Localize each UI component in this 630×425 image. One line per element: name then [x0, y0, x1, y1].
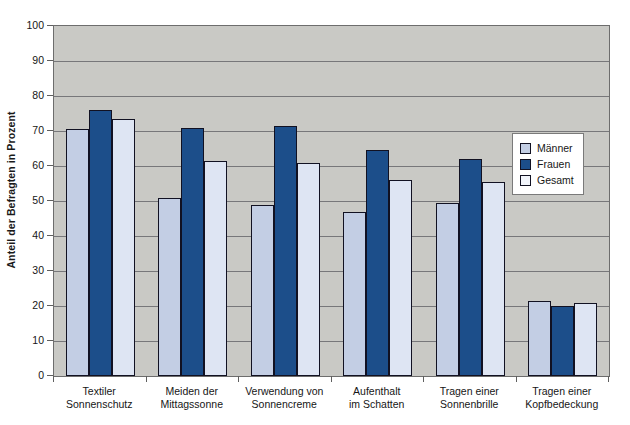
gridline: [54, 96, 609, 97]
bar: [343, 212, 366, 377]
y-tick-label: 10: [4, 334, 44, 346]
x-axis-label: Meiden derMittagssonne: [146, 385, 239, 411]
bar: [389, 180, 412, 376]
bar: [66, 129, 89, 376]
bar: [436, 203, 459, 376]
category-tick: [608, 376, 609, 382]
y-tick-label: 90: [4, 54, 44, 66]
legend: Männer Frauen Gesamt: [512, 133, 584, 195]
legend-item-frauen: Frauen: [520, 156, 574, 172]
legend-item-maenner: Männer: [520, 140, 574, 156]
bar: [366, 150, 389, 376]
x-label-line: Verwendung von: [238, 385, 331, 398]
bar: [204, 161, 227, 376]
legend-label-gesamt: Gesamt: [537, 174, 574, 186]
x-axis-label: TextilerSonnenschutz: [53, 385, 146, 411]
category-tick: [146, 376, 147, 382]
y-tick-label: 50: [4, 194, 44, 206]
gridline: [54, 201, 609, 202]
plot-area: [53, 25, 610, 377]
x-label-line: Sonnenbrille: [423, 398, 516, 411]
bar: [158, 198, 181, 377]
y-tick-label: 40: [4, 229, 44, 241]
bar: [112, 119, 135, 376]
gridline: [54, 271, 609, 272]
bar: [251, 205, 274, 377]
bar-chart: Anteil der Befragten in Prozent 01020304…: [0, 0, 630, 425]
x-axis-label: Tragen einerKopfbedeckung: [516, 385, 609, 411]
x-label-line: Tragen einer: [423, 385, 516, 398]
x-label-line: Sonnencreme: [238, 398, 331, 411]
x-axis-label: Verwendung vonSonnencreme: [238, 385, 331, 411]
bar: [89, 110, 112, 376]
bar: [574, 303, 597, 377]
bar: [274, 126, 297, 376]
y-tick-label: 80: [4, 89, 44, 101]
bar: [482, 182, 505, 376]
bar: [181, 128, 204, 377]
category-tick: [423, 376, 424, 382]
gridline: [54, 236, 609, 237]
gridline: [54, 306, 609, 307]
legend-swatch-icon-gesamt: [520, 175, 531, 186]
bar: [297, 163, 320, 377]
x-label-line: Meiden der: [146, 385, 239, 398]
y-tick-label: 70: [4, 124, 44, 136]
category-tick: [53, 376, 54, 382]
gridline: [54, 61, 609, 62]
gridline: [54, 131, 609, 132]
y-tick-label: 60: [4, 159, 44, 171]
x-axis-label: Aufenthaltim Schatten: [331, 385, 424, 411]
bar: [551, 306, 574, 376]
bar: [459, 159, 482, 376]
y-tick-label: 0: [4, 369, 44, 381]
legend-swatch-icon-maenner: [520, 143, 531, 154]
x-axis-label: Tragen einerSonnenbrille: [423, 385, 516, 411]
x-label-line: Sonnenschutz: [53, 398, 146, 411]
x-label-line: Aufenthalt: [331, 385, 424, 398]
category-tick: [331, 376, 332, 382]
gridline: [54, 341, 609, 342]
y-tick-label: 100: [4, 19, 44, 31]
x-label-line: Mittagssonne: [146, 398, 239, 411]
legend-item-gesamt: Gesamt: [520, 172, 574, 188]
category-tick: [238, 376, 239, 382]
x-label-line: Kopfbedeckung: [516, 398, 609, 411]
legend-label-frauen: Frauen: [537, 158, 570, 170]
legend-label-maenner: Männer: [537, 142, 573, 154]
x-label-line: im Schatten: [331, 398, 424, 411]
x-label-line: Textiler: [53, 385, 146, 398]
y-tick-label: 30: [4, 264, 44, 276]
bar: [528, 301, 551, 376]
y-tick-label: 20: [4, 299, 44, 311]
x-label-line: Tragen einer: [516, 385, 609, 398]
legend-swatch-icon-frauen: [520, 159, 531, 170]
category-tick: [516, 376, 517, 382]
